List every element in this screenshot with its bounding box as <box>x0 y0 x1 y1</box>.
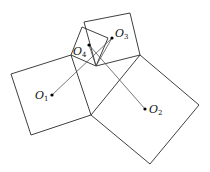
segment-o4-o2 <box>89 45 145 109</box>
point-o3 <box>110 36 113 39</box>
label-o4: O4 <box>73 45 87 59</box>
point-o4 <box>87 43 90 46</box>
label-o2: O2 <box>149 103 163 117</box>
segment-o4-bottom <box>89 45 96 66</box>
point-o2 <box>143 107 146 110</box>
label-o3: O3 <box>115 27 129 41</box>
label-o1: O1 <box>35 89 49 103</box>
geometry-diagram: O1O2O3O4 <box>0 0 210 172</box>
point-o1 <box>50 93 53 96</box>
